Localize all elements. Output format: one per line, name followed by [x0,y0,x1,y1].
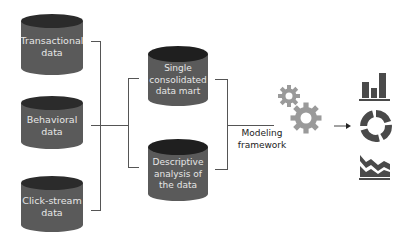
connector [128,78,129,168]
connector [100,125,129,126]
cylinder-transactional-data: Transactional data [20,13,84,76]
donut-chart-icon [360,110,392,142]
cylinder-label: Single consolidated data mart [147,63,209,98]
cylinder-single-consolidated-data-mart: Single consolidated data mart [147,45,209,107]
cylinder-descriptive-analysis: Descriptive analysis of the data [147,138,209,202]
cylinder-label: Click-stream data [20,195,84,219]
area-chart-icon [359,152,391,182]
connector [227,125,274,126]
gears-icon [276,83,326,138]
connector [128,167,139,168]
cylinder-click-stream-data: Click-stream data [20,175,84,233]
cylinder-label: Descriptive analysis of the data [147,157,209,192]
cylinder-behavioral-data: Behavioral data [20,95,84,150]
cylinder-label: Transactional data [20,35,84,59]
cylinder-label: Behavioral data [20,114,84,138]
connector [100,41,101,211]
connector [128,78,139,79]
arrow-right-icon [334,122,352,130]
bar-chart-icon [359,72,391,102]
